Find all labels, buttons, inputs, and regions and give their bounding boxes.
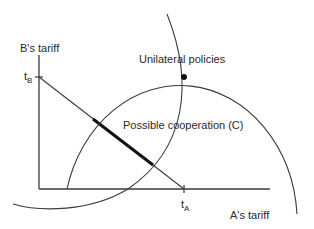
ta-label: tA	[181, 199, 189, 210]
tb-label: tB	[24, 71, 32, 82]
cooperation-label: Possible cooperation (C)	[123, 120, 243, 131]
x-axis-label: A's tariff	[230, 210, 269, 221]
unilateral-label: Unilateral policies	[139, 54, 225, 65]
ta-subscript: A	[184, 204, 189, 213]
tariff-diagram	[0, 0, 314, 229]
unilateral-point	[181, 74, 187, 80]
tb-subscript: B	[27, 76, 32, 85]
y-axis-label: B's tariff	[20, 43, 59, 54]
indifference-curve-a	[67, 86, 297, 214]
